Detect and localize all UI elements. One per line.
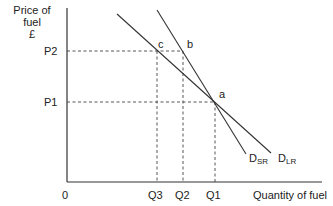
d-sr-sub: SR [257,157,268,166]
d-sr-main: D [249,152,257,164]
long-run-demand-curve [117,14,271,153]
d-lr-main: D [278,152,286,164]
y-axis-label-line1: Price of [4,4,60,16]
y-axis-label-line2: fuel [4,16,60,28]
y-axis-label-line3: £ [4,28,60,40]
d-lr-sub: LR [286,157,296,166]
point-c-label: c [158,38,164,50]
long-run-demand-label: DLR [278,152,296,168]
quantity-tick-q3: Q3 [148,189,163,201]
short-run-demand-label: DSR [249,152,268,168]
point-a-label: a [219,88,225,100]
x-axis-label: Quantity of fuel [253,189,327,201]
price-tick-p2: P2 [44,45,57,57]
short-run-demand-curve [157,10,246,154]
point-b-label: b [187,38,193,50]
quantity-tick-q2: Q2 [175,189,190,201]
quantity-tick-q1: Q1 [206,189,221,201]
price-tick-p1: P1 [44,96,57,108]
y-axis-label: Price of fuel £ [4,4,60,40]
origin-label: 0 [62,189,68,201]
